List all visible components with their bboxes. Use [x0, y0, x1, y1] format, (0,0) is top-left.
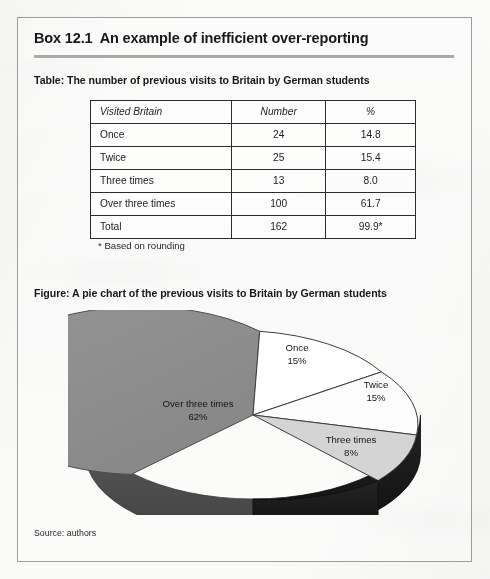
table-cell-percent: 61.7 — [326, 193, 416, 216]
pie-label-over-three-times-value: 62% — [188, 411, 208, 422]
table-header-number: Number — [232, 101, 326, 124]
pie-slice-over-three-times — [68, 310, 260, 474]
table-row: Twice 25 15.4 — [91, 147, 416, 170]
table-cell-number: 162 — [232, 216, 326, 239]
table-cell-percent: 8.0 — [326, 170, 416, 193]
table-cell-label: Twice — [91, 147, 232, 170]
source-line: Source: authors — [34, 528, 96, 538]
pie-label-twice-value: 15% — [366, 392, 386, 403]
pie-label-once-value: 15% — [287, 355, 307, 366]
table-cell-label: Total — [91, 216, 232, 239]
box-frame: Box 12.1 An example of inefficient over-… — [17, 17, 472, 562]
table-caption: Table: The number of previous visits to … — [34, 74, 370, 86]
pie-label-once-name: Once — [286, 342, 309, 353]
page-title: Box 12.1 An example of inefficient over-… — [34, 30, 368, 46]
pie-label-twice-name: Twice — [364, 379, 389, 390]
table-header-row: Visited Britain Number % — [91, 101, 416, 124]
table-cell-percent: 99.9* — [326, 216, 416, 239]
table-header-percent: % — [326, 101, 416, 124]
table-row: Once 24 14.8 — [91, 124, 416, 147]
table-footnote: * Based on rounding — [98, 240, 185, 251]
table-cell-number: 25 — [232, 147, 326, 170]
table-row: Over three times 100 61.7 — [91, 193, 416, 216]
pie-label-over-three-times-name: Over three times — [163, 398, 234, 409]
pie-label-three-times-value: 8% — [344, 447, 358, 458]
table-row: Three times 13 8.0 — [91, 170, 416, 193]
table-header-visited-britain: Visited Britain — [91, 101, 232, 124]
pie-chart-svg: Once 15% Twice 15% Three times 8% Over t… — [68, 310, 448, 515]
figure-caption: Figure: A pie chart of the previous visi… — [34, 287, 387, 299]
table-cell-label: Over three times — [91, 193, 232, 216]
table-cell-label: Once — [91, 124, 232, 147]
title-divider — [34, 55, 454, 58]
table-cell-number: 13 — [232, 170, 326, 193]
table-cell-number: 24 — [232, 124, 326, 147]
visits-table: Visited Britain Number % Once 24 14.8 Tw… — [90, 100, 416, 239]
scanned-page: Box 12.1 An example of inefficient over-… — [0, 0, 490, 579]
table-cell-label: Three times — [91, 170, 232, 193]
pie-label-three-times-name: Three times — [326, 434, 377, 445]
table-cell-percent: 14.8 — [326, 124, 416, 147]
table-cell-percent: 15.4 — [326, 147, 416, 170]
pie-chart: Once 15% Twice 15% Three times 8% Over t… — [68, 310, 448, 515]
table-cell-number: 100 — [232, 193, 326, 216]
table-row-total: Total 162 99.9* — [91, 216, 416, 239]
